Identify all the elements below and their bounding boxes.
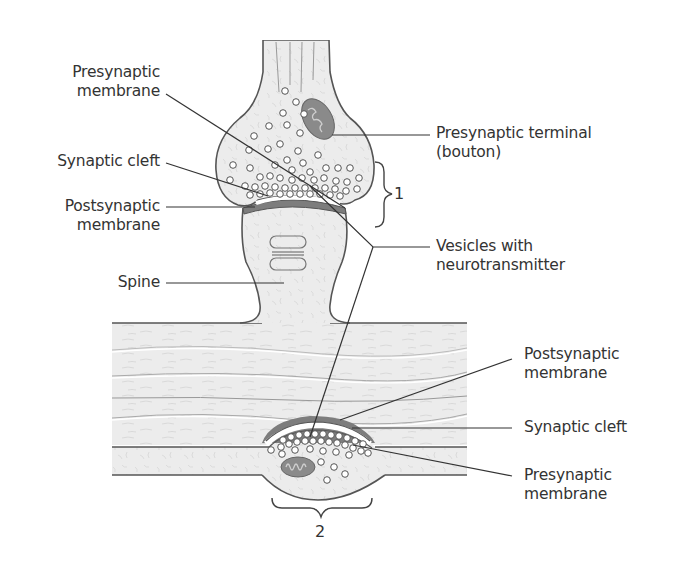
label-presynaptic-terminal: Presynaptic terminal (bouton)	[436, 124, 592, 162]
label-spine: Spine	[60, 273, 160, 292]
dendritic-spine	[240, 200, 350, 323]
label-vesicles: Vesicles with neurotransmitter	[436, 237, 565, 275]
bracket-number-1: 1	[394, 184, 404, 203]
label-presynaptic-membrane-top: Presynaptic membrane	[20, 63, 160, 101]
bracket-number-2: 2	[315, 522, 325, 541]
label-synaptic-cleft-top: Synaptic cleft	[10, 152, 160, 171]
bracket-1	[375, 162, 392, 227]
label-postsynaptic-membrane-top: Postsynaptic membrane	[20, 197, 160, 235]
label-presynaptic-membrane-bottom: Presynaptic membrane	[524, 466, 612, 504]
bracket-2	[272, 498, 372, 517]
label-synaptic-cleft-bottom: Synaptic cleft	[524, 418, 627, 437]
synapse-diagram: Presynaptic membrane Synaptic cleft Post…	[0, 0, 674, 569]
label-postsynaptic-membrane-bottom: Postsynaptic membrane	[524, 345, 619, 383]
mitochondrion-2	[281, 457, 315, 477]
presynaptic-bouton-1	[216, 30, 374, 206]
